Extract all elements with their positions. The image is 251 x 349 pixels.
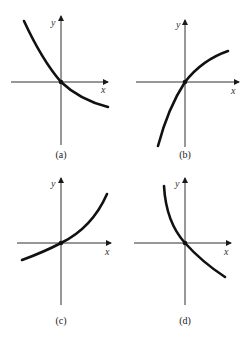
x-label: x — [104, 246, 110, 257]
panel-c: y x (c) — [17, 178, 111, 327]
y-label: y — [50, 17, 56, 28]
figure: y x (a) y x (b) y x (c) y x (d) — [0, 0, 251, 349]
caption: (b) — [179, 149, 191, 161]
y-label: y — [174, 178, 180, 189]
x-label: x — [100, 84, 106, 95]
origin-dot — [59, 241, 64, 246]
origin-dot — [183, 241, 188, 246]
origin-dot — [183, 80, 188, 85]
curve — [164, 186, 225, 277]
y-label: y — [175, 19, 181, 30]
caption: (c) — [55, 315, 66, 327]
x-label: x — [230, 85, 236, 96]
panel-d: y x (d) — [134, 178, 231, 327]
origin-dot — [59, 80, 64, 85]
curve — [158, 51, 228, 146]
panel-b: y x (b) — [136, 19, 239, 161]
curve — [22, 194, 107, 260]
x-label: x — [223, 246, 229, 257]
y-label: y — [50, 178, 56, 189]
caption: (d) — [179, 315, 191, 327]
curve — [24, 21, 108, 107]
panel-a: y x (a) — [11, 16, 108, 161]
caption: (a) — [55, 149, 66, 161]
